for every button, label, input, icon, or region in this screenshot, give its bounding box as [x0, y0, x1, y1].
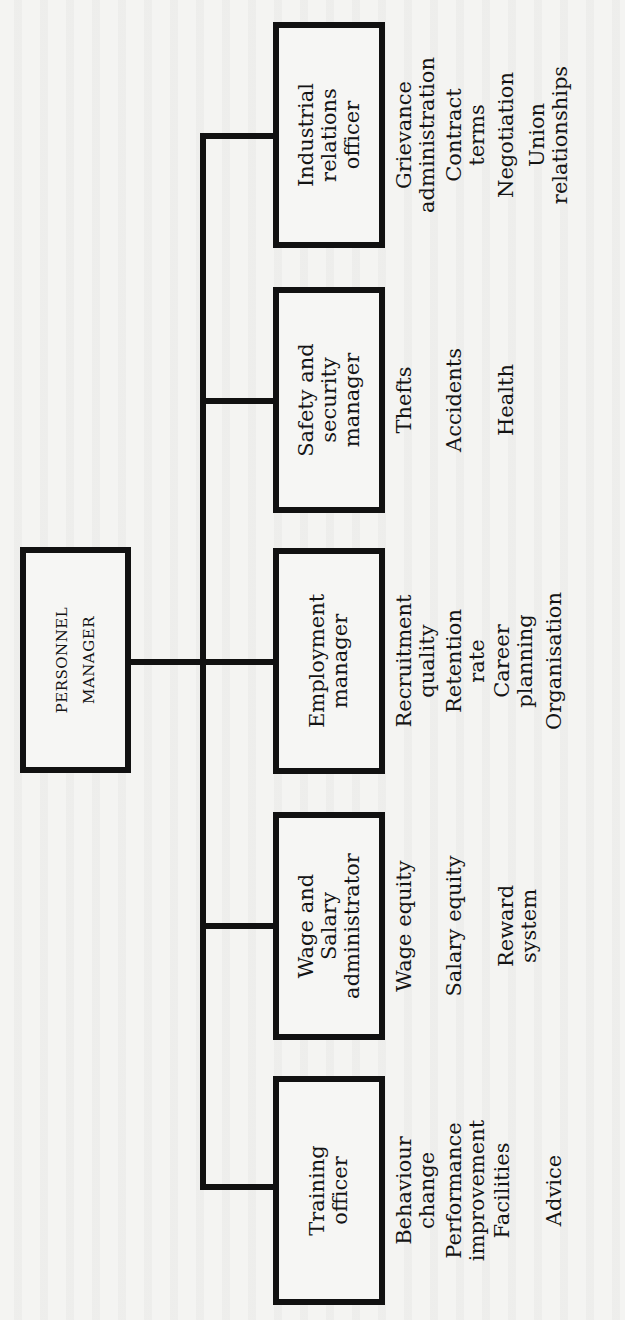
- responsibility-item: Salary equity: [443, 812, 466, 1040]
- responsibility-item: Negotiation: [495, 22, 518, 248]
- employment-manager-label: Employment manager: [306, 594, 352, 728]
- safety-security-manager-label: Safety and security manager: [295, 343, 364, 457]
- safety-security-responsibilities: Thefts Accidents Health: [393, 287, 613, 513]
- industrial-relations-responsibilities: Grievance administration Contract terms …: [393, 22, 613, 248]
- wage-salary-responsibilities: Wage equity Salary equity Reward system: [393, 812, 613, 1040]
- wage-salary-administrator-box: Wage and Salary administrator: [273, 812, 385, 1040]
- responsibility-item: Thefts: [393, 287, 416, 513]
- org-chart: PERSONNEL MANAGER Training officer Wage …: [0, 0, 625, 1320]
- responsibility-item: Career planning: [491, 548, 537, 774]
- responsibility-item: Performance improvement: [443, 1076, 489, 1305]
- responsibility-item: Behaviour change: [393, 1076, 439, 1305]
- responsibility-item: Advice: [543, 1076, 566, 1305]
- responsibility-item: Contract terms: [443, 22, 489, 248]
- connector-wage-salary: [200, 923, 282, 929]
- personnel-manager-label: PERSONNEL MANAGER: [49, 607, 103, 714]
- connector-employment: [200, 659, 276, 665]
- connector-industrial-relations: [200, 133, 276, 139]
- responsibility-item: Reward system: [495, 812, 541, 1040]
- wage-salary-administrator-label: Wage and Salary administrator: [295, 853, 364, 999]
- personnel-manager-box: PERSONNEL MANAGER: [20, 547, 131, 773]
- industrial-relations-officer-label: Industrial relations officer: [295, 83, 364, 187]
- employment-manager-box: Employment manager: [273, 548, 385, 774]
- responsibility-item: Accidents: [443, 287, 466, 513]
- training-officer-box: Training officer: [273, 1076, 385, 1305]
- responsibility-item: Organisation: [543, 548, 566, 774]
- safety-security-manager-box: Safety and security manager: [273, 287, 385, 513]
- responsibility-item: Facilities: [491, 1076, 514, 1305]
- responsibility-item: Recruitment quality: [393, 548, 439, 774]
- employment-responsibilities: Recruitment quality Retention rate Caree…: [393, 548, 613, 774]
- responsibility-item: Retention rate: [443, 548, 489, 774]
- industrial-relations-officer-box: Industrial relations officer: [273, 22, 385, 248]
- responsibility-item: Grievance administration: [393, 22, 439, 248]
- responsibility-item: Health: [495, 287, 518, 513]
- connector-safety-security: [200, 398, 280, 404]
- responsibility-item: Wage equity: [393, 812, 416, 1040]
- connector-training: [200, 1184, 276, 1190]
- training-responsibilities: Behaviour change Performance improvement…: [393, 1076, 613, 1305]
- training-officer-label: Training officer: [306, 1145, 352, 1236]
- responsibility-item: Union relationships: [526, 22, 572, 248]
